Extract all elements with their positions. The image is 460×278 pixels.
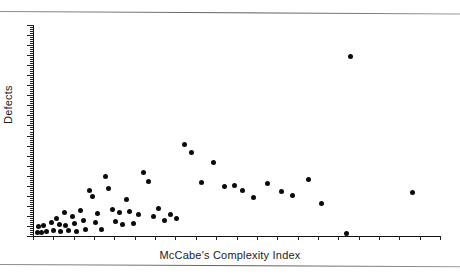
y-axis-minor-tick — [30, 142, 33, 143]
data-point — [117, 210, 122, 215]
data-point — [106, 186, 111, 191]
y-axis-minor-tick — [30, 127, 33, 128]
y-axis-major-tick — [27, 176, 33, 177]
y-axis-minor-tick — [30, 190, 33, 191]
data-point — [41, 223, 46, 228]
x-axis-tick — [216, 236, 217, 240]
y-axis-minor-tick — [30, 208, 33, 209]
data-point — [99, 227, 104, 232]
y-axis-major-tick — [27, 216, 33, 217]
y-axis-major-tick — [27, 105, 33, 106]
y-axis-major-tick — [27, 45, 33, 46]
y-axis-minor-tick — [30, 111, 33, 112]
y-axis-major-tick — [27, 35, 33, 36]
data-point — [74, 229, 79, 234]
y-axis-minor-tick — [30, 53, 33, 54]
y-axis-minor-tick — [30, 174, 33, 175]
y-axis-minor-tick — [30, 198, 33, 199]
y-axis-minor-tick — [30, 220, 33, 221]
y-axis-major-tick — [27, 55, 33, 56]
y-axis-minor-tick — [30, 192, 33, 193]
y-axis-minor-tick — [30, 168, 33, 169]
y-axis-major-tick — [27, 75, 33, 76]
y-axis-minor-tick — [30, 194, 33, 195]
y-axis-major-tick — [27, 226, 33, 227]
y-axis-minor-tick — [30, 202, 33, 203]
x-axis-tick — [338, 236, 339, 240]
y-axis-minor-tick — [30, 150, 33, 151]
data-point — [344, 231, 349, 236]
y-axis-minor-tick — [30, 27, 33, 28]
data-point — [279, 189, 284, 194]
x-axis-tick — [359, 236, 360, 240]
data-point — [127, 209, 132, 214]
data-point — [90, 194, 95, 199]
x-axis-tick — [237, 236, 238, 240]
data-point — [146, 179, 151, 184]
y-axis-minor-tick — [30, 89, 33, 90]
data-point — [232, 183, 237, 188]
y-axis-minor-tick — [30, 99, 33, 100]
y-axis-minor-tick — [30, 129, 33, 130]
x-axis-tick — [420, 236, 421, 240]
y-axis-minor-tick — [30, 101, 33, 102]
x-axis-tick — [257, 236, 258, 240]
data-point — [63, 223, 68, 228]
x-axis-tick — [277, 236, 278, 240]
scan-artifact-rule-bottom — [0, 264, 460, 267]
data-point — [319, 201, 324, 206]
y-axis-minor-tick — [30, 117, 33, 118]
x-axis-tick — [94, 236, 95, 240]
y-axis-minor-tick — [30, 154, 33, 155]
data-point — [265, 181, 270, 186]
y-axis-minor-tick — [30, 91, 33, 92]
y-axis-minor-tick — [30, 232, 33, 233]
y-axis-minor-tick — [30, 164, 33, 165]
y-axis-minor-tick — [30, 144, 33, 145]
data-point — [174, 216, 179, 221]
y-axis-minor-tick — [30, 37, 33, 38]
y-axis-minor-tick — [30, 103, 33, 104]
data-point — [348, 54, 353, 59]
y-axis-minor-tick — [30, 57, 33, 58]
data-point — [81, 218, 86, 223]
data-point — [72, 221, 77, 226]
data-point — [182, 142, 187, 147]
data-point — [58, 229, 63, 234]
y-axis-minor-tick — [30, 59, 33, 60]
scan-artifact-rule-top — [0, 11, 460, 14]
y-axis-minor-tick — [30, 230, 33, 231]
x-axis-tick — [318, 236, 319, 240]
y-axis-minor-tick — [30, 93, 33, 94]
x-axis-tick — [175, 236, 176, 240]
y-axis-minor-tick — [30, 81, 33, 82]
y-axis-minor-tick — [30, 41, 33, 42]
y-axis-major-tick — [27, 166, 33, 167]
y-axis-minor-tick — [30, 158, 33, 159]
y-axis-minor-tick — [30, 123, 33, 124]
data-point — [44, 229, 49, 234]
y-axis-minor-tick — [30, 140, 33, 141]
y-axis-minor-tick — [30, 77, 33, 78]
data-point — [211, 160, 216, 165]
y-axis-minor-tick — [30, 182, 33, 183]
y-axis-major-tick — [27, 115, 33, 116]
y-axis-major-tick — [27, 65, 33, 66]
y-axis-minor-tick — [30, 162, 33, 163]
y-axis-minor-tick — [30, 210, 33, 211]
y-axis-minor-tick — [30, 47, 33, 48]
data-point — [62, 210, 67, 215]
y-axis-minor-tick — [30, 73, 33, 74]
data-point — [120, 222, 125, 227]
y-axis-minor-tick — [30, 39, 33, 40]
y-axis-major-tick — [27, 146, 33, 147]
data-point — [51, 228, 56, 233]
y-axis-minor-tick — [30, 107, 33, 108]
y-axis-minor-tick — [30, 83, 33, 84]
y-axis-minor-tick — [30, 31, 33, 32]
y-axis-minor-tick — [30, 224, 33, 225]
data-point — [57, 222, 62, 227]
y-axis-minor-tick — [30, 49, 33, 50]
data-point — [136, 212, 141, 217]
data-point — [251, 195, 256, 200]
